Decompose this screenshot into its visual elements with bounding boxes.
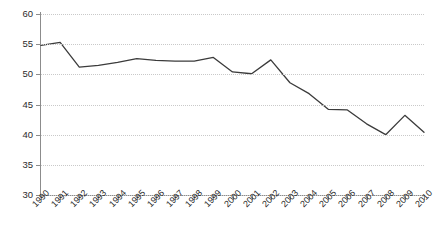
gridline-y-55	[41, 44, 424, 45]
gridline-y-60	[41, 14, 424, 15]
y-tick-mark-55	[36, 44, 41, 45]
gridline-y-35	[41, 165, 424, 166]
y-tick-mark-35	[36, 165, 41, 166]
y-tick-mark-45	[36, 105, 41, 106]
y-tick-label-60: 60	[0, 8, 33, 19]
gridline-y-45	[41, 105, 424, 106]
gridline-y-40	[41, 135, 424, 136]
line-chart: 30354045505560 1990199119921993199419951…	[0, 0, 434, 236]
plot-area	[41, 14, 424, 195]
gridline-y-50	[41, 74, 424, 75]
y-tick-label-55: 55	[0, 38, 33, 49]
y-tick-label-50: 50	[0, 68, 33, 79]
y-tick-mark-50	[36, 74, 41, 75]
y-tick-label-45: 45	[0, 99, 33, 110]
y-tick-label-35: 35	[0, 159, 33, 170]
y-tick-label-40: 40	[0, 129, 33, 140]
y-tick-label-30: 30	[0, 189, 33, 200]
y-tick-mark-40	[36, 135, 41, 136]
y-tick-mark-60	[36, 14, 41, 15]
